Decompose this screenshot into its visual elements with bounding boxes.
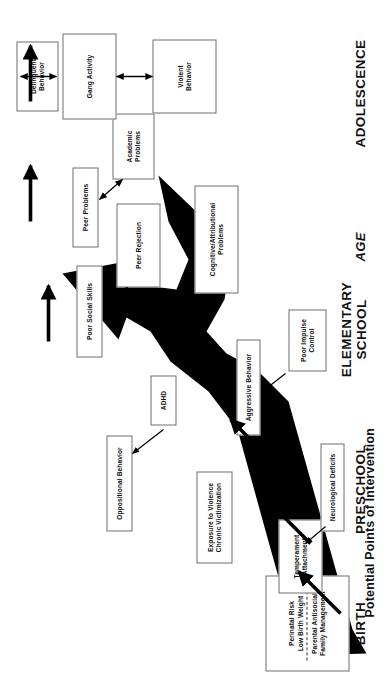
diagram-canvas: Potential Points of Intervention AGE BIR… — [0, 0, 392, 691]
intervention-arrow-3[interactable] — [230, 419, 272, 461]
intervention-arrow-2[interactable] — [268, 501, 310, 543]
figure-frame: Potential Points of Intervention AGE BIR… — [0, 0, 392, 691]
intervention-arrow-layer — [0, 0, 392, 691]
figure-rotated-canvas: Potential Points of Intervention AGE BIR… — [0, 0, 392, 691]
intervention-arrow-1[interactable] — [298, 571, 340, 613]
